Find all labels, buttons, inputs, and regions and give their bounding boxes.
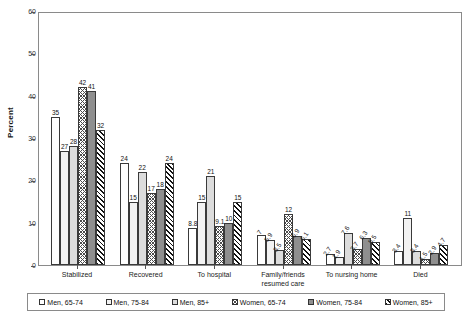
legend-swatch <box>172 299 178 305</box>
bar-slot: 6.1 <box>302 13 311 265</box>
bar-slot: 10 <box>224 13 233 265</box>
y-tick-mark <box>31 224 35 225</box>
bar-value-label: 27 <box>61 143 68 150</box>
bar[interactable] <box>439 245 448 265</box>
x-tick-mark <box>214 265 215 269</box>
bar-slot: 21 <box>206 13 215 265</box>
legend-item[interactable]: Men, 75-84 <box>106 299 149 306</box>
legend-swatch <box>232 299 238 305</box>
bar-group: 8.815219.11015 <box>188 13 242 265</box>
legend-label: Men, 75-84 <box>114 299 149 306</box>
legend-swatch <box>385 299 391 305</box>
bar-value-label: 15 <box>234 194 241 201</box>
x-tick-mark <box>77 265 78 269</box>
bar[interactable] <box>224 223 233 265</box>
x-tick-mark <box>420 265 421 269</box>
legend-label: Men, 65-74 <box>47 299 82 306</box>
legend-item[interactable]: Women, 65-74 <box>232 299 286 306</box>
bar-slot: 11 <box>403 13 412 265</box>
bar-group: 3.4113.41.52.94.7 <box>394 13 448 265</box>
y-tick-mark <box>31 54 35 55</box>
bar-slot: 35 <box>51 13 60 265</box>
bar[interactable] <box>78 87 87 265</box>
legend-item[interactable]: Men, 85+ <box>172 299 209 306</box>
y-tick-mark <box>31 139 35 140</box>
legend-label: Women, 75-84 <box>316 299 362 306</box>
bar[interactable] <box>403 218 412 265</box>
bar[interactable] <box>302 239 311 265</box>
bar[interactable] <box>206 176 215 265</box>
bar-value-label: 8.8 <box>188 220 197 227</box>
bar[interactable] <box>215 226 224 265</box>
bar[interactable] <box>197 202 206 266</box>
bar[interactable] <box>371 242 380 265</box>
bar-value-label: 41 <box>88 83 95 90</box>
legend-label: Men, 85+ <box>180 299 209 306</box>
bar-slot: 12 <box>284 13 293 265</box>
bar-value-label: 15 <box>130 194 137 201</box>
bar[interactable] <box>120 163 129 265</box>
legend-item[interactable]: Women, 75-84 <box>308 299 362 306</box>
x-tick-label: Died <box>380 270 460 279</box>
bar-value-label: 18 <box>157 181 164 188</box>
legend-item[interactable]: Women, 85+ <box>385 299 433 306</box>
legend-swatch <box>106 299 112 305</box>
legend-label: Women, 65-74 <box>240 299 286 306</box>
bar[interactable] <box>233 202 242 266</box>
bar-slot: 3.4 <box>412 13 421 265</box>
bar-value-label: 28 <box>70 138 77 145</box>
bar-slot: 15 <box>129 13 138 265</box>
bar[interactable] <box>147 193 156 265</box>
y-axis: 0102030405060 <box>0 0 36 268</box>
x-tick-mark <box>283 265 284 269</box>
bar[interactable] <box>293 236 302 265</box>
bar[interactable] <box>188 228 197 265</box>
bar[interactable] <box>165 163 174 265</box>
bar-slot: 24 <box>120 13 129 265</box>
bar-value-label: 24 <box>166 155 173 162</box>
bar[interactable] <box>156 189 165 265</box>
bar-slot: 28 <box>69 13 78 265</box>
bar-slot: 6.3 <box>362 13 371 265</box>
bar-group: 352728424132 <box>51 13 105 265</box>
bar-slot: 17 <box>147 13 156 265</box>
legend-label: Women, 85+ <box>393 299 433 306</box>
legend-swatch <box>308 299 314 305</box>
bar[interactable] <box>69 146 78 265</box>
bar-slot: 6.9 <box>293 13 302 265</box>
bar-value-label: 15 <box>198 194 205 201</box>
y-tick-mark <box>31 181 35 182</box>
bar-slot: 2.9 <box>430 13 439 265</box>
x-tick-mark <box>351 265 352 269</box>
bar-value-label: 12 <box>285 206 292 213</box>
bar[interactable] <box>87 91 96 265</box>
bar[interactable] <box>60 151 69 265</box>
bar-value-label: 22 <box>139 164 146 171</box>
bar[interactable] <box>51 117 60 265</box>
bar-slot: 3.4 <box>394 13 403 265</box>
y-tick-mark <box>31 266 35 267</box>
bar[interactable] <box>96 130 105 265</box>
legend-item[interactable]: Men, 65-74 <box>39 299 82 306</box>
bar-slot: 7 <box>257 13 266 265</box>
bar-value-label: 10 <box>225 215 232 222</box>
bar-slot: 5.5 <box>371 13 380 265</box>
bar-value-label: 21 <box>207 168 214 175</box>
bar-slot: 2.7 <box>326 13 335 265</box>
bar-slot: 3.7 <box>353 13 362 265</box>
bar[interactable] <box>129 202 138 266</box>
bar-value-label: 42 <box>79 79 86 86</box>
bar-chart: Percent 0102030405060 352728424132241522… <box>0 0 470 317</box>
bar-slot: 32 <box>96 13 105 265</box>
bar-group: 2.71.97.63.76.35.5 <box>326 13 380 265</box>
bar[interactable] <box>138 172 147 265</box>
bar-slot: 42 <box>78 13 87 265</box>
bar-slot: 15 <box>233 13 242 265</box>
bar-slot: 18 <box>156 13 165 265</box>
bar-slot: 3.5 <box>275 13 284 265</box>
bar-slot: 15 <box>197 13 206 265</box>
y-tick-mark <box>31 97 35 98</box>
bar[interactable] <box>284 214 293 265</box>
bar-group: 75.93.5126.96.1 <box>257 13 311 265</box>
bar-slot: 7.6 <box>344 13 353 265</box>
